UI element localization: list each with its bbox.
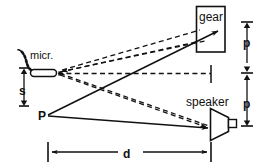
- source-point-label: P: [38, 110, 46, 122]
- dimension-d-label: d: [123, 148, 130, 160]
- gear-label: gear: [199, 11, 223, 23]
- dimension-s-label: s: [19, 85, 26, 97]
- microphone-label: micr.: [30, 50, 53, 61]
- speaker-body: [211, 109, 237, 141]
- dimension-p-lower-label: p: [243, 98, 250, 110]
- speaker-label: speaker: [186, 96, 229, 108]
- ray-mic-to-gear-line: [60, 41, 205, 72]
- diagram-canvas: gear speaker micr. P s p p d: [0, 0, 263, 168]
- dimension-p-upper-label: p: [243, 37, 250, 49]
- ray-p-to-speaker-line: [48, 116, 208, 128]
- diagram-vector-layer: [0, 0, 263, 168]
